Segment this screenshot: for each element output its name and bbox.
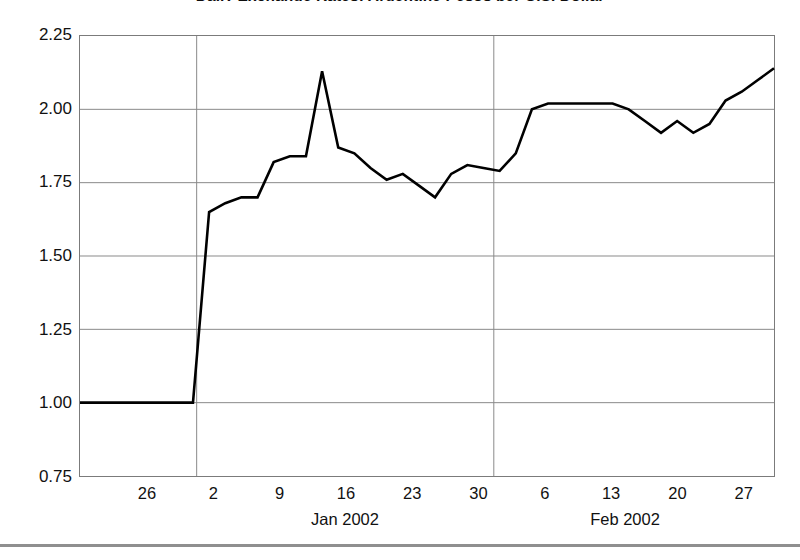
x-tick-label: 9 (250, 484, 310, 502)
series-line-chart (80, 36, 774, 476)
footer-rule (0, 544, 800, 547)
y-tick-label: 2.00 (6, 100, 72, 117)
x-tick-label: 16 (316, 484, 376, 502)
y-tick-label: 1.75 (6, 173, 72, 190)
y-tick-label: 0.75 (6, 468, 72, 485)
y-tick-label: 2.25 (6, 26, 72, 43)
x-tick-label: 27 (714, 484, 774, 502)
plot-area (79, 35, 775, 477)
chart-title: Daily Exchange Rates: Argentine Pesos pe… (0, 0, 800, 1)
x-tick-label: 6 (515, 484, 575, 502)
y-tick-label: 1.00 (6, 394, 72, 411)
x-tick-label: 23 (382, 484, 442, 502)
y-tick-label: 1.50 (6, 247, 72, 264)
x-tick-label: 30 (449, 484, 509, 502)
y-tick-label: 1.25 (6, 321, 72, 338)
x-tick-label: 13 (581, 484, 641, 502)
x-group-label: Feb 2002 (535, 510, 715, 528)
y-axis: 2.252.001.751.501.251.000.75 (0, 0, 72, 560)
chart-figure: Daily Exchange Rates: Argentine Pesos pe… (0, 0, 800, 560)
exchange-rate-line (80, 68, 774, 402)
horizontal-gridlines (80, 109, 774, 402)
x-tick-label: 2 (183, 484, 243, 502)
x-tick-label: 26 (117, 484, 177, 502)
x-group-label: Jan 2002 (255, 510, 435, 528)
x-tick-label: 20 (647, 484, 707, 502)
